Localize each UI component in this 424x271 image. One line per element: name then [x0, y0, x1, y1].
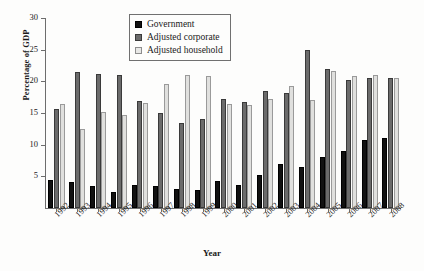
- y-tick-label-10: 10: [30, 139, 39, 149]
- bar: [305, 50, 310, 208]
- bar: [331, 71, 336, 208]
- bar: [75, 72, 80, 208]
- bar: [54, 109, 59, 208]
- bar: [215, 181, 220, 208]
- bar-group: [278, 18, 294, 208]
- bar-group: [320, 18, 336, 208]
- bar: [346, 80, 351, 208]
- bar: [382, 138, 387, 208]
- bar-group: [111, 18, 127, 208]
- bar: [268, 99, 273, 208]
- y-tick-30: 30: [41, 18, 45, 19]
- bar: [143, 103, 148, 208]
- bar-group: [362, 18, 378, 208]
- y-tick-label-20: 20: [30, 75, 39, 85]
- bar: [80, 129, 85, 208]
- legend-swatch-adjusted-household: [135, 47, 142, 54]
- bar: [60, 104, 65, 208]
- bar: [320, 157, 325, 208]
- bar: [96, 74, 101, 208]
- y-tick-label-15: 15: [30, 107, 39, 117]
- bar: [263, 91, 268, 208]
- bar-group: [90, 18, 106, 208]
- bar-group: [236, 18, 252, 208]
- legend-label-adjusted-corporate: Adjusted corporate: [147, 33, 220, 43]
- bar: [48, 180, 53, 209]
- bar: [284, 93, 289, 208]
- legend-swatch-adjusted-corporate: [135, 34, 142, 41]
- bar: [373, 75, 378, 208]
- legend-label-adjusted-household: Adjusted household: [147, 46, 223, 56]
- y-tick-5: 5: [41, 176, 45, 177]
- bar: [179, 123, 184, 208]
- bar-group: [257, 18, 273, 208]
- y-tick-10: 10: [41, 145, 45, 146]
- bar: [185, 75, 190, 208]
- bar-group: [299, 18, 315, 208]
- y-tick-label-25: 25: [30, 44, 39, 54]
- bar-group: [48, 18, 64, 208]
- y-tick-25: 25: [41, 50, 45, 51]
- bar: [227, 104, 232, 209]
- y-tick-label-5: 5: [34, 170, 38, 180]
- bar: [158, 113, 163, 208]
- bar: [325, 69, 330, 208]
- bar: [200, 119, 205, 208]
- bar: [101, 112, 106, 208]
- bar: [310, 100, 315, 208]
- bar-group: [382, 18, 398, 208]
- legend-item-adjusted-household: Adjusted household: [135, 44, 223, 57]
- bar: [164, 84, 169, 208]
- bar: [122, 115, 127, 208]
- y-tick-15: 15: [41, 113, 45, 114]
- bar: [257, 175, 262, 208]
- bar: [206, 76, 211, 208]
- bar: [247, 105, 252, 208]
- bar: [394, 78, 399, 208]
- y-tick-20: 20: [41, 81, 45, 82]
- bar: [69, 182, 74, 208]
- legend-item-adjusted-corporate: Adjusted corporate: [135, 31, 223, 44]
- x-axis-title: Year: [0, 248, 424, 258]
- legend-item-government: Government: [135, 18, 223, 31]
- bar: [221, 99, 226, 208]
- bar-group: [69, 18, 85, 208]
- chart-legend: Government Adjusted corporate Adjusted h…: [129, 14, 231, 61]
- legend-swatch-government: [135, 21, 142, 28]
- bar: [137, 101, 142, 208]
- y-axis-line: [45, 18, 46, 209]
- bar: [352, 76, 357, 208]
- bar: [289, 86, 294, 208]
- bar: [242, 102, 247, 208]
- bar: [299, 167, 304, 208]
- bar: [117, 75, 122, 208]
- bar-chart: Percentage of GDP 51015202530 1992199319…: [0, 0, 424, 271]
- bar: [362, 140, 367, 208]
- bar: [341, 151, 346, 208]
- bar: [278, 164, 283, 208]
- bar-group: [341, 18, 357, 208]
- bar: [367, 78, 372, 208]
- bar: [388, 78, 393, 208]
- legend-label-government: Government: [147, 20, 195, 30]
- bar: [90, 186, 95, 208]
- y-tick-label-30: 30: [30, 12, 39, 22]
